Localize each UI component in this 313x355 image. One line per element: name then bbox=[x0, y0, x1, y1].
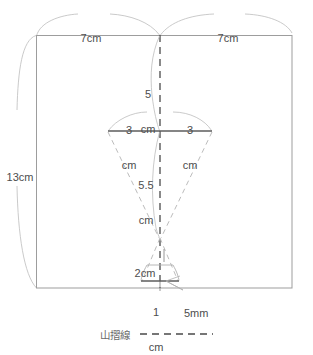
arc-top-right bbox=[161, 14, 215, 35]
measure-label-bottom-small-width: 1 cm bbox=[144, 284, 168, 355]
guide-right-diverge bbox=[160, 238, 178, 281]
legend-label: 山摺線 bbox=[100, 327, 130, 342]
measure-value-unit: cm bbox=[144, 342, 168, 354]
measure-value-num: 5.5 bbox=[132, 180, 160, 192]
measure-label-left-height: 13cm bbox=[2, 149, 38, 207]
measure-value: 13cm bbox=[2, 172, 38, 184]
arc-top-right-2 bbox=[245, 14, 292, 33]
arc-top-left bbox=[37, 14, 79, 36]
measure-value-num: 3 bbox=[178, 125, 202, 137]
measure-value: 2cm bbox=[130, 268, 160, 280]
measure-label-top-right-width: 7cm bbox=[212, 10, 244, 68]
measure-value: 7cm bbox=[75, 33, 107, 45]
measure-label-mid-drop: 5.5 cm bbox=[132, 157, 160, 249]
measure-value-num: 1 bbox=[144, 307, 168, 319]
measure-value-num: 3 bbox=[117, 125, 141, 137]
measure-label-bar-right-half: 3 cm bbox=[178, 102, 202, 194]
arc-top-left-2 bbox=[110, 14, 160, 35]
measure-value: 7cm bbox=[212, 33, 244, 45]
measure-value-unit: cm bbox=[178, 160, 202, 172]
measure-value: 5mm bbox=[184, 308, 218, 320]
measure-label-top-left-width: 7cm bbox=[75, 10, 107, 68]
measure-label-bottom-offset: 5mm bbox=[184, 285, 218, 343]
measure-value-num: 5 bbox=[136, 89, 160, 101]
arc-left-height bbox=[17, 36, 36, 111]
measure-value-unit: cm bbox=[132, 215, 160, 227]
